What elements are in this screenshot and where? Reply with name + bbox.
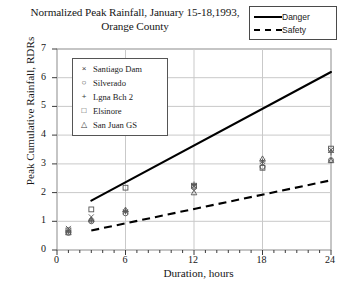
y-tick-1: 1 [41, 214, 46, 225]
legend-label-san-juan-gs: San Juan GS [93, 120, 137, 130]
y-tick-4: 4 [41, 128, 46, 139]
x-axis-title: Duration, hours [56, 267, 341, 279]
x-tick-6: 6 [123, 254, 128, 265]
plus-marker-icon: + [75, 90, 93, 104]
y-axis-title: Peak Cumulative Rainfall, RDRs [24, 11, 36, 211]
circle-marker-icon: ○ [75, 76, 93, 90]
x-tick-0: 0 [54, 254, 59, 265]
x-marker-icon: × [75, 62, 93, 76]
legend-item-elsinore: □ Elsinore [75, 104, 165, 118]
series-legend: × Santiago Dam ○ Silverado + Lgna Bch 2 … [72, 58, 168, 136]
y-tick-0: 0 [41, 243, 46, 254]
y-tick-2: 2 [41, 186, 46, 197]
x-tick-24: 24 [325, 254, 335, 265]
legend-label-elsinore: Elsinore [93, 106, 122, 116]
plot-area [0, 0, 345, 288]
triangle-marker-icon: △ [75, 118, 93, 132]
legend-label-santiago-dam: Santiago Dam [93, 64, 142, 74]
legend-item-san-juan-gs: △ San Juan GS [75, 118, 165, 132]
legend-item-santiago-dam: × Santiago Dam [75, 62, 165, 76]
legend-item-lgna-bch-2: + Lgna Bch 2 [75, 90, 165, 104]
legend-label-silverado: Silverado [93, 78, 126, 88]
y-tick-6: 6 [41, 71, 46, 82]
legend-item-silverado: ○ Silverado [75, 76, 165, 90]
x-tick-12: 12 [188, 254, 198, 265]
y-tick-3: 3 [41, 157, 46, 168]
y-axis-ticks [52, 49, 57, 250]
x-tick-18: 18 [257, 254, 267, 265]
legend-label-lgna-bch-2: Lgna Bch 2 [93, 92, 133, 102]
chart-figure: Normalized Peak Rainfall, January 15-18,… [0, 0, 345, 288]
y-tick-7: 7 [41, 42, 46, 53]
y-tick-5: 5 [41, 99, 46, 110]
square-marker-icon: □ [75, 104, 93, 118]
